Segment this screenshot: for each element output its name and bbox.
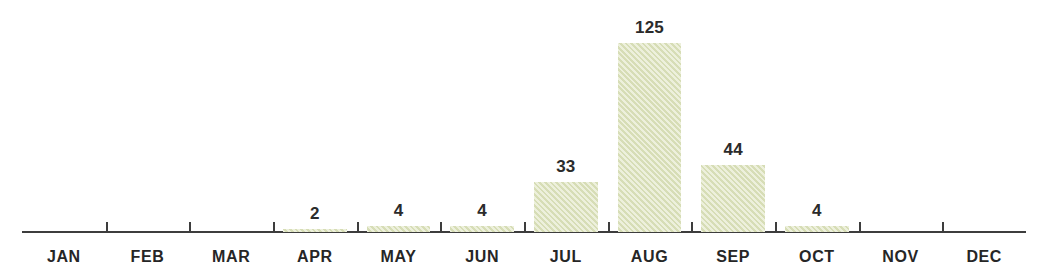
x-axis-category-label: DEC [942, 249, 1026, 265]
bar-column[interactable]: 4OCT [775, 0, 859, 277]
x-axis-category-label: AUG [608, 249, 692, 265]
bar[interactable] [534, 182, 598, 232]
x-axis-category-label: FEB [106, 249, 190, 265]
x-axis-category-label: OCT [775, 249, 859, 265]
bar-column[interactable]: 44SEP [691, 0, 775, 277]
bar-column-group: JANFEBMAR2APR4MAY4JUN33JUL125AUG44SEP4OC… [22, 0, 1026, 277]
bar-value-label: 4 [357, 202, 441, 219]
bar-column[interactable]: MAR [189, 0, 273, 277]
x-axis-category-label: MAY [357, 249, 441, 265]
bar-column[interactable]: DEC [942, 0, 1026, 277]
bar-column[interactable]: 125AUG [608, 0, 692, 277]
bar[interactable] [618, 43, 682, 232]
bar[interactable] [701, 165, 765, 232]
bar-value-label: 4 [440, 202, 524, 219]
plot-area: JANFEBMAR2APR4MAY4JUN33JUL125AUG44SEP4OC… [0, 0, 1048, 277]
monthly-bar-chart: JANFEBMAR2APR4MAY4JUN33JUL125AUG44SEP4OC… [0, 0, 1048, 277]
bar-value-label: 2 [273, 205, 357, 222]
x-axis-category-label: JAN [22, 249, 106, 265]
x-axis-category-label: JUL [524, 249, 608, 265]
bar[interactable] [367, 226, 431, 232]
x-axis-category-label: APR [273, 249, 357, 265]
x-axis-category-label: NOV [859, 249, 943, 265]
bar-value-label: 33 [524, 158, 608, 175]
bar[interactable] [785, 226, 849, 232]
bar[interactable] [450, 226, 514, 232]
bar[interactable] [283, 229, 347, 232]
bar-column[interactable]: 2APR [273, 0, 357, 277]
x-axis-category-label: SEP [691, 249, 775, 265]
bar-column[interactable]: 33JUL [524, 0, 608, 277]
bar-column[interactable]: 4JUN [440, 0, 524, 277]
bar-column[interactable]: 4MAY [357, 0, 441, 277]
bar-value-label: 4 [775, 202, 859, 219]
x-axis-category-label: JUN [440, 249, 524, 265]
bar-value-label: 125 [608, 19, 692, 36]
x-axis-category-label: MAR [189, 249, 273, 265]
bar-column[interactable]: NOV [859, 0, 943, 277]
bar-column[interactable]: FEB [106, 0, 190, 277]
bar-value-label: 44 [691, 141, 775, 158]
bar-column[interactable]: JAN [22, 0, 106, 277]
